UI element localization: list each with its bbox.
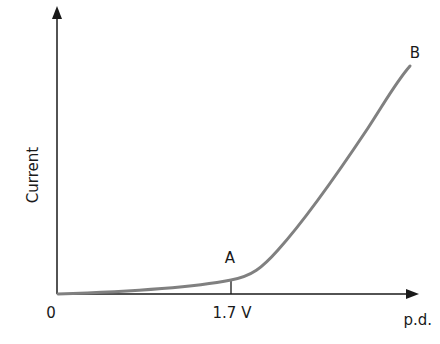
- y-axis-label: Current: [24, 147, 42, 203]
- x-axis-label: p.d.: [403, 311, 432, 329]
- y-axis-arrow-icon: [52, 6, 62, 19]
- tick-label-1-7v: 1.7 V: [213, 304, 253, 322]
- point-a-label: A: [225, 249, 236, 267]
- point-b-label: B: [410, 44, 420, 62]
- iv-chart: Current p.d. 0 1.7 V A B: [0, 0, 440, 344]
- origin-label: 0: [46, 304, 56, 322]
- x-axis-arrow-icon: [406, 289, 419, 299]
